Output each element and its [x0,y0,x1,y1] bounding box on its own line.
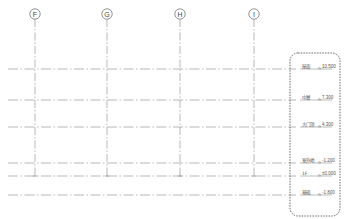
level-elevation: 7.300 [322,95,334,100]
grid-label: F [33,11,37,18]
level-2[interactable]: 大门顶4.300 [8,121,334,128]
level-marker-icon [318,67,321,69]
grid-I[interactable]: I [249,9,259,176]
level-marker-icon [318,98,321,100]
level-elevation: 4.300 [322,122,334,127]
level-0[interactable]: 屋面10.500 [8,64,336,71]
level-elevation: -1.800 [322,190,335,195]
level-marker-icon [318,161,321,163]
level-4[interactable]: 1F±0.000 [8,171,336,177]
level-name: 1F [302,171,308,176]
grid-H[interactable]: H [175,9,185,176]
grid-label: H [177,11,182,18]
level-lines: 屋面10.500中層7.300大门顶4.300室外地-1.2001F±0.000… [8,64,336,197]
grid-G[interactable]: G [102,9,112,176]
grid-lines: FGHI [30,9,259,176]
level-marker-icon [318,193,321,195]
level-elevation: -1.200 [322,158,335,163]
level-1[interactable]: 中層7.300 [8,94,334,101]
grid-label: G [104,11,109,18]
level-elevation: ±0.000 [322,171,336,176]
grid-F[interactable]: F [30,9,40,176]
drawing-canvas[interactable]: FGHI 屋面10.500中層7.300大门顶4.300室外地-1.2001F±… [0,0,349,219]
level-5[interactable]: 基础-1.800 [8,189,335,196]
level-elevation: 10.500 [322,64,336,69]
level-marker-icon [318,174,321,176]
level-marker-icon [318,125,321,127]
grid-label: I [253,11,255,18]
level-3[interactable]: 室外地-1.200 [8,157,335,164]
